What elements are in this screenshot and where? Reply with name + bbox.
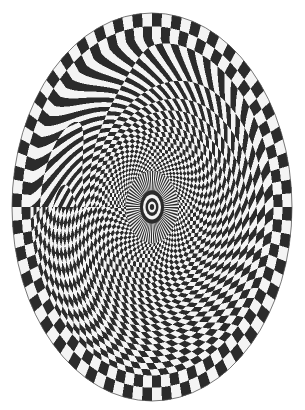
spiral-checkerboard-illusion bbox=[0, 0, 305, 410]
